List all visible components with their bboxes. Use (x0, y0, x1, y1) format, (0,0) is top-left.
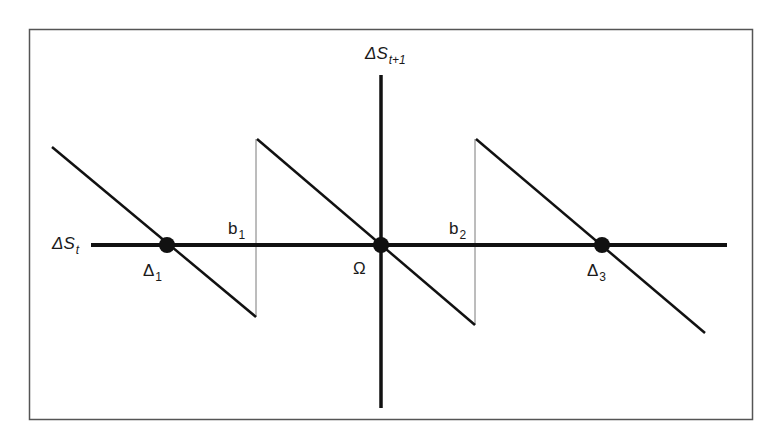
label-b2-sub: 2 (459, 228, 466, 242)
y-axis-label: ΔSt+1 (365, 45, 406, 62)
label-delta-1: Δ1 (143, 262, 162, 279)
label-delta-1-main: Δ (143, 261, 154, 280)
x-axis-label-sub: t (76, 243, 79, 257)
y-axis-label-sub: t+1 (389, 53, 406, 67)
label-b1-main: b (228, 219, 237, 238)
diagram-frame (30, 30, 753, 420)
x-axis-label: ΔSt (52, 235, 79, 252)
label-omega-main: Ω (353, 259, 366, 278)
fixed-point-omega (373, 237, 389, 253)
label-omega: Ω (353, 260, 366, 277)
x-axis-label-main: ΔS (52, 234, 75, 253)
label-delta-3: Δ3 (587, 262, 606, 279)
fixed-point-delta-3 (594, 237, 610, 253)
label-b2-main: b (449, 219, 458, 238)
y-axis-label-main: ΔS (365, 44, 388, 63)
label-b1: b1 (228, 220, 245, 237)
label-b2: b2 (449, 220, 466, 237)
label-delta-3-main: Δ (587, 261, 598, 280)
label-delta-1-sub: 1 (155, 270, 162, 284)
label-delta-3-sub: 3 (599, 270, 606, 284)
label-b1-sub: 1 (238, 228, 245, 242)
fixed-point-delta-1 (159, 237, 175, 253)
